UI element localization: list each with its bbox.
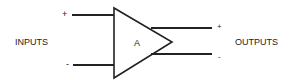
input-minus-sign: - (66, 59, 69, 69)
inputs-label: INPUTS (15, 37, 48, 47)
output-minus-sign: - (218, 52, 221, 62)
amplifier-triangle (114, 8, 172, 78)
output-plus-sign: + (217, 22, 222, 32)
amplifier-diagram: + - + - INPUTS A OUTPUTS (0, 0, 298, 80)
input-plus-sign: + (62, 9, 67, 19)
amplifier-label: A (134, 38, 140, 48)
outputs-label: OUTPUTS (235, 37, 278, 47)
